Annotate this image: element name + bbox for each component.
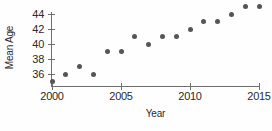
y-tick-44 (48, 14, 55, 15)
y-tick-label-38: 38 (22, 53, 44, 65)
y-tick-36 (48, 74, 55, 75)
y-tick-label-36: 36 (22, 68, 44, 80)
data-point (91, 72, 96, 77)
data-point (174, 34, 179, 39)
x-tick-label-2005: 2005 (101, 90, 141, 102)
data-point (132, 34, 137, 39)
data-point (77, 64, 82, 69)
data-point (160, 34, 165, 39)
data-point (215, 19, 220, 24)
y-tick-label-42: 42 (22, 23, 44, 35)
x-tick-2015 (259, 83, 260, 90)
x-tick-label-2010: 2010 (170, 90, 210, 102)
data-point (229, 12, 234, 17)
x-axis-title: Year (51, 108, 260, 119)
data-point (257, 4, 262, 9)
data-point (146, 42, 151, 47)
y-tick-label-40: 40 (22, 38, 44, 50)
y-axis-title: Mean Age (4, 22, 15, 74)
y-tick-40 (48, 44, 55, 45)
x-tick-label-2000: 2000 (32, 90, 72, 102)
scatter-chart: 3638404244 2000200520102015 Mean Age Yea… (0, 0, 272, 131)
y-tick-38 (48, 59, 55, 60)
x-tick-2010 (190, 83, 191, 90)
data-point (243, 4, 248, 9)
x-tick-2000 (52, 83, 53, 90)
y-tick-label-44: 44 (22, 8, 44, 20)
data-point (201, 19, 206, 24)
x-tick-label-2015: 2015 (239, 90, 272, 102)
data-point (119, 49, 124, 54)
data-point (188, 27, 193, 32)
data-point (105, 49, 110, 54)
x-axis-line (51, 86, 260, 87)
data-point (50, 79, 55, 84)
y-tick-42 (48, 29, 55, 30)
x-tick-2005 (121, 83, 122, 90)
plot-area: 3638404244 2000200520102015 Mean Age Yea… (0, 0, 272, 131)
data-point (63, 72, 68, 77)
